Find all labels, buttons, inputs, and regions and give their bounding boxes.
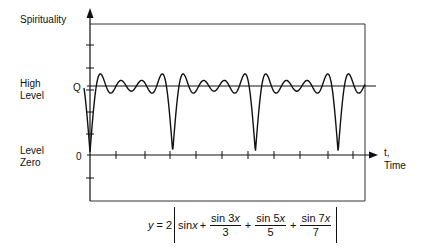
formula-plus: + <box>245 219 251 231</box>
formula-lhs: y <box>148 219 154 231</box>
high-level-label-1: High <box>20 78 41 90</box>
y-axis-title: Spirituality <box>20 14 66 26</box>
formula-abs: sinx + sin 3x3 + sin 5x5 + sin 7x7 <box>174 207 337 243</box>
level-zero-label-1: Level <box>20 145 44 157</box>
x-axis-label-1: t, <box>384 147 390 159</box>
y-axis-arrow-icon <box>87 8 94 18</box>
level-zero-label-2: Zero <box>20 157 41 169</box>
formula-term1: sinx <box>178 219 198 231</box>
q-tick-label: Q <box>73 82 81 94</box>
high-level-label-2: Level <box>20 90 44 102</box>
x-axis-label-2: Time <box>384 160 406 172</box>
formula-plus: + <box>200 219 206 231</box>
time-axis-arrow-icon <box>369 152 378 159</box>
formula: y = 2 sinx + sin 3x3 + sin 5x5 + sin 7x7 <box>148 204 337 246</box>
formula-plus: + <box>290 219 296 231</box>
formula-frac2: sin 5x5 <box>255 212 286 239</box>
formula-eq: = 2 <box>157 219 173 231</box>
zero-tick-label: 0 <box>76 151 82 163</box>
formula-frac3: sin 7x7 <box>300 212 331 239</box>
formula-frac1: sin 3x3 <box>210 212 241 239</box>
